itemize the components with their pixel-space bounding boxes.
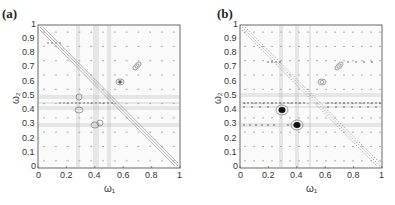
panel-a: (a) xyxy=(0,0,197,205)
xtick: 0 xyxy=(36,170,41,180)
xtick: 0.6 xyxy=(117,170,130,180)
ytick: 0.6 xyxy=(22,76,35,86)
ytick: 0.1 xyxy=(224,147,237,157)
ytick: 0.4 xyxy=(224,104,237,114)
xtick: 0.8 xyxy=(347,170,360,180)
xtick: 0.4 xyxy=(290,170,303,180)
xtick: 0 xyxy=(238,170,243,180)
ytick: 0.1 xyxy=(22,147,35,157)
strong-peak xyxy=(294,122,301,128)
ytick: 0.5 xyxy=(224,90,237,100)
y-axis-label: ω₂ xyxy=(10,92,21,104)
ytick: 1 xyxy=(233,19,238,29)
ytick: 0.7 xyxy=(22,61,35,71)
ytick: 0.5 xyxy=(22,90,35,100)
ytick: 0.8 xyxy=(224,47,237,57)
ytick: 0.4 xyxy=(22,104,35,114)
ytick: 0.3 xyxy=(22,118,35,128)
ytick: 0.8 xyxy=(22,47,35,57)
ytick: 0.9 xyxy=(224,33,237,43)
xtick: 0.2 xyxy=(60,170,73,180)
xtick: 0.2 xyxy=(262,170,275,180)
panel-b: (b) xyxy=(198,0,395,205)
x-axis-label: ω₁ xyxy=(306,183,317,194)
ytick: 0.2 xyxy=(224,133,237,143)
ytick: 0.2 xyxy=(22,133,35,143)
xtick: 1 xyxy=(379,170,384,180)
ytick: 0.7 xyxy=(224,61,237,71)
ytick: 0.9 xyxy=(22,33,35,43)
ytick: 0.6 xyxy=(224,76,237,86)
strong-peak xyxy=(279,107,286,113)
xtick: 0.8 xyxy=(145,170,158,180)
xtick: 0.6 xyxy=(319,170,332,180)
xtick: 1 xyxy=(177,170,182,180)
ytick: 0.3 xyxy=(224,118,237,128)
x-axis-label: ω₁ xyxy=(104,183,115,194)
y-axis-label: ω₂ xyxy=(212,92,223,104)
xtick: 0.4 xyxy=(88,170,101,180)
ytick: 1 xyxy=(31,19,36,29)
